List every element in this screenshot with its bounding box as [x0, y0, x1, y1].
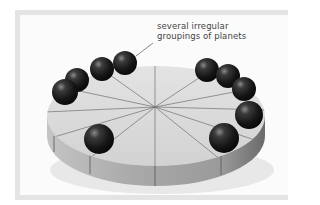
annotation-line-2: groupings of planets — [157, 31, 246, 41]
planet — [232, 77, 256, 101]
planet — [52, 79, 78, 105]
planet — [84, 124, 114, 154]
annotation-line-1: several irregular — [157, 21, 246, 31]
planet — [113, 51, 137, 75]
planet — [235, 101, 263, 129]
annotation-label: several irregular groupings of planets — [157, 21, 246, 41]
planet — [90, 57, 114, 81]
annotation-leader-line — [136, 43, 153, 56]
planet — [195, 58, 219, 82]
planet — [209, 123, 239, 153]
